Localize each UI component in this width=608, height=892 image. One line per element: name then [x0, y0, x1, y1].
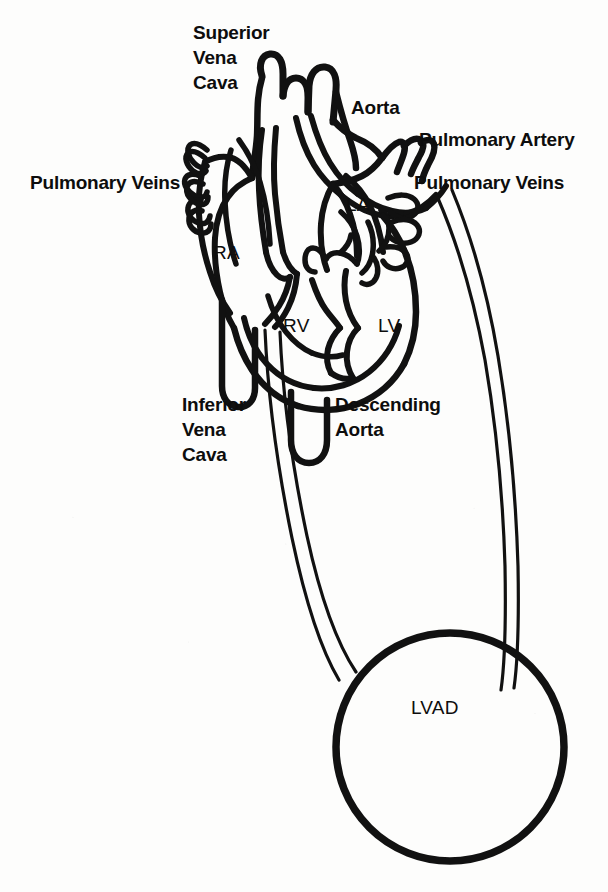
outflow-cannula-right: [437, 190, 518, 690]
label-aorta: Aorta: [351, 95, 400, 120]
label-inferior-vena-cava: Inferior Vena Cava: [182, 392, 246, 467]
figure-canvas: Superior Vena Cava Aorta Pulmonary Arter…: [0, 0, 608, 892]
label-lvad: LVAD: [411, 695, 459, 720]
superior-vena-cava-outline: [260, 54, 336, 122]
label-pulmonary-veins-left: Pulmonary Veins: [30, 170, 180, 195]
label-right-atrium: RA: [213, 240, 240, 265]
label-descending-aorta: Descending Aorta: [335, 392, 441, 442]
label-pulmonary-artery: Pulmonary Artery: [419, 127, 575, 152]
interventricular-septum: [312, 271, 358, 379]
label-right-ventricle: RV: [283, 313, 310, 338]
mitral-valve-detail: [305, 212, 373, 273]
lvad-device-circle: [336, 633, 564, 861]
label-left-atrium: LA: [346, 192, 370, 217]
label-pulmonary-veins-right: Pulmonary Veins: [414, 170, 564, 195]
label-left-ventricle: LV: [378, 313, 400, 338]
right-heart-interior-detail: [259, 128, 297, 327]
label-superior-vena-cava: Superior Vena Cava: [193, 20, 270, 95]
